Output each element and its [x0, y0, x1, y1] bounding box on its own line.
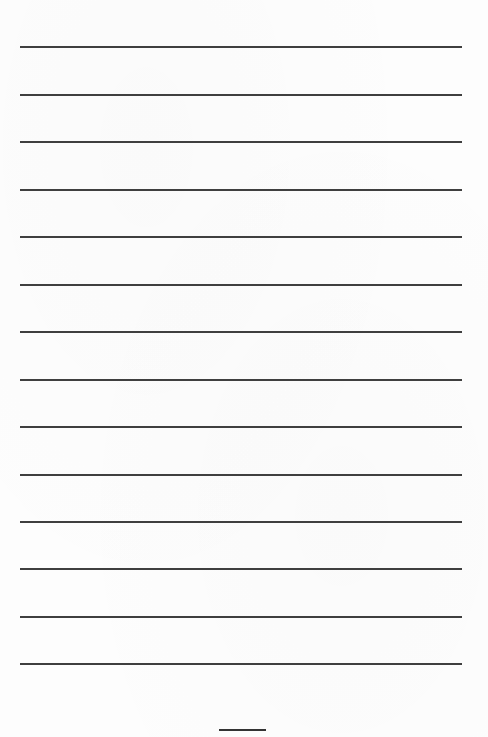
- ruled-line: [20, 331, 462, 333]
- ruled-line: [20, 236, 462, 238]
- lined-page: [0, 0, 488, 737]
- ruled-line: [20, 426, 462, 428]
- ruled-line: [20, 616, 462, 618]
- ruled-line: [20, 189, 462, 191]
- ruled-line: [20, 474, 462, 476]
- ruled-line: [20, 141, 462, 143]
- ruled-line: [20, 521, 462, 523]
- page-number-line: [219, 729, 266, 731]
- ruled-line: [20, 379, 462, 381]
- ruled-line: [20, 46, 462, 48]
- ruled-line: [20, 284, 462, 286]
- ruled-line: [20, 663, 462, 665]
- ruled-line: [20, 94, 462, 96]
- ruled-line: [20, 568, 462, 570]
